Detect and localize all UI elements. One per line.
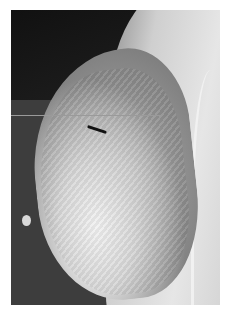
nipple-marker [22, 215, 31, 226]
scan-line-artifact [11, 115, 161, 116]
radiograph-frame [11, 10, 220, 305]
